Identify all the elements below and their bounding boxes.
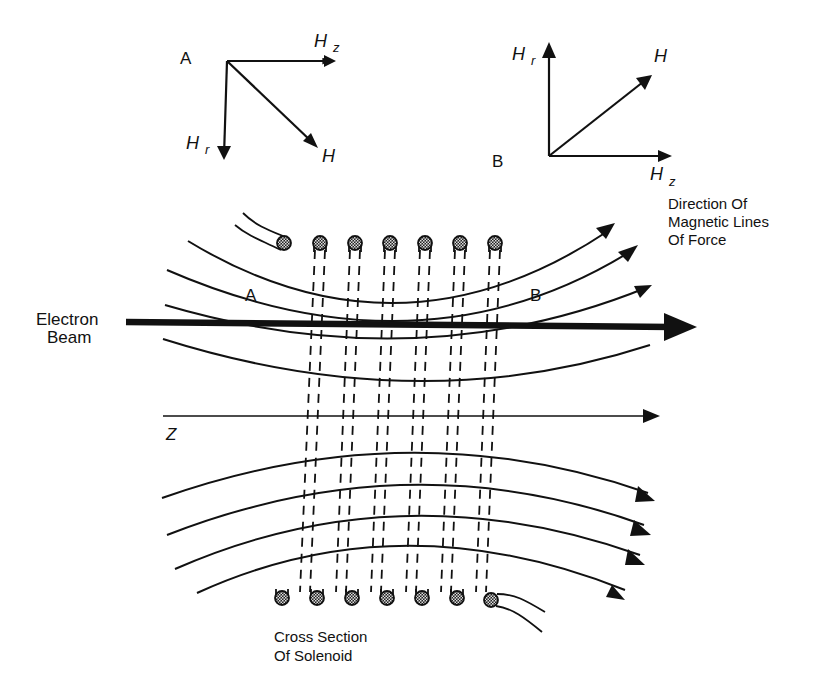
hr-vector-a [224, 61, 227, 156]
h-vector-a [227, 61, 312, 142]
label-point-a: A [245, 286, 257, 305]
h-vector-b [549, 82, 643, 156]
field-line [165, 287, 648, 338]
field-line [197, 546, 625, 593]
z-axis-arrowhead-icon [643, 409, 660, 423]
arrowhead-icon [618, 245, 638, 262]
label-point-b: B [530, 286, 541, 305]
label-cross-line2: Of Solenoid [274, 647, 352, 664]
label-cross-line1: Cross Section [274, 628, 367, 645]
electron-beam-arrowhead-icon [664, 313, 697, 341]
label-electron-line1: Electron [36, 310, 98, 329]
label-hz-a-sub: z [332, 40, 340, 55]
solenoid-top-conductors [235, 213, 502, 252]
label-hz-a: H [314, 31, 328, 51]
vector-diagram-a [217, 55, 336, 160]
field-line [167, 485, 644, 535]
field-line [163, 339, 650, 381]
label-hr-a: H [186, 133, 200, 153]
label-b-vector: B [492, 152, 503, 171]
label-hr-a-sub: r [205, 142, 210, 157]
label-hz-b-sub: z [668, 174, 676, 189]
solenoid-bottom-conductors [275, 589, 545, 632]
upper-field-lines [163, 231, 650, 381]
label-hz-b: H [650, 164, 664, 184]
field-line [167, 253, 628, 321]
label-axis-z: Z [165, 425, 177, 444]
label-electron-line2: Beam [47, 328, 91, 347]
diagram-canvas: A H z H r H B H r H H z Direction Of Mag… [0, 0, 832, 684]
electron-beam-line [126, 322, 672, 327]
arrowhead-icon [625, 549, 645, 565]
solenoid-windings [300, 250, 500, 592]
lower-field-lines [162, 453, 648, 593]
label-a-vector: A [180, 49, 192, 68]
label-direction-line2: Magnetic Lines [668, 213, 769, 230]
label-hr-b: H [512, 44, 526, 64]
vector-diagram-b [542, 42, 672, 162]
label-hr-b-sub: r [531, 53, 536, 68]
label-direction-line3: Of Force [668, 231, 726, 248]
label-h-b: H [654, 46, 668, 66]
label-direction-line1: Direction Of [668, 195, 748, 212]
field-line [162, 453, 648, 498]
arrowhead-icon [630, 520, 651, 536]
label-h-a: H [322, 146, 336, 166]
arrowhead-icon [635, 486, 655, 502]
solenoid-diagram: A H z H r H B H r H H z Direction Of Mag… [0, 0, 832, 684]
